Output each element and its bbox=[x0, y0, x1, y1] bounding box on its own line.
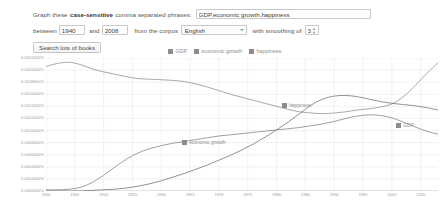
legend-item-gdp[interactable]: GDP bbox=[168, 48, 187, 54]
x-axis-tick-label: 2000 bbox=[387, 192, 396, 197]
plot-area[interactable]: happinesseconomic growthGDP bbox=[46, 58, 438, 191]
inline-label-swatch-icon bbox=[282, 103, 287, 108]
range-row: between and from the corpus English with… bbox=[33, 23, 413, 37]
smoothing-label: with smoothing of bbox=[253, 27, 302, 34]
inline-label-happiness[interactable]: happiness bbox=[282, 103, 311, 108]
y-axis-tick-label: 0.0016000% bbox=[21, 92, 44, 96]
inline-label-text: GDP bbox=[403, 123, 413, 128]
x-axis-tick-label: 1990 bbox=[330, 192, 339, 197]
smoothing-stepper[interactable]: 3 ▲▼ bbox=[305, 25, 319, 35]
graph-prompt-emphasis: case-sensitive bbox=[70, 11, 113, 18]
inline-label-swatch-icon bbox=[182, 140, 187, 145]
corpus-selected-value: English bbox=[182, 27, 205, 34]
legend-label: happiness bbox=[257, 48, 282, 54]
legend-swatch-icon bbox=[249, 49, 254, 54]
x-axis-tick-label: 2005 bbox=[416, 192, 425, 197]
series-lines bbox=[46, 62, 438, 191]
y-axis-tick-label: 0.0012000% bbox=[21, 116, 44, 120]
inline-label-text: happiness bbox=[289, 103, 311, 108]
inline-label-gdp[interactable]: GDP bbox=[396, 123, 414, 128]
corpus-label: from the corpus bbox=[134, 27, 178, 34]
x-axis-tick-label: 1980 bbox=[272, 192, 281, 197]
legend-swatch-icon bbox=[194, 49, 199, 54]
y-axis-tick-label: 0.0002000% bbox=[21, 177, 44, 181]
y-axis-tick-label: 0.0018000% bbox=[21, 80, 44, 84]
grid-lines bbox=[46, 58, 438, 191]
series-line-GDP bbox=[46, 95, 438, 191]
x-axis-ticks: 1940194519501955196019651970197519801985… bbox=[46, 192, 438, 202]
x-axis-tick-label: 1945 bbox=[70, 192, 79, 197]
corpus-select[interactable]: English bbox=[181, 25, 247, 35]
y-axis-ticks: 0.0022000%0.0020000%0.0018000%0.0016000%… bbox=[0, 58, 44, 191]
legend-item-economic-growth[interactable]: economic growth bbox=[194, 48, 242, 54]
and-label: and bbox=[89, 27, 99, 34]
chevron-down-icon bbox=[240, 29, 244, 31]
y-axis-tick-label: 0.0022000% bbox=[21, 56, 44, 60]
graph-prompt-suffix: comma separated phrases: bbox=[115, 11, 191, 18]
phrases-row: Graph these case-sensitive comma separat… bbox=[33, 7, 413, 21]
x-axis-tick-label: 1970 bbox=[214, 192, 223, 197]
inline-label-economic-growth[interactable]: economic growth bbox=[182, 140, 225, 145]
between-label: between bbox=[33, 27, 57, 34]
inline-label-text: economic growth bbox=[189, 140, 225, 145]
x-axis-tick-label: 1985 bbox=[301, 192, 310, 197]
y-axis-tick-label: 0.0014000% bbox=[21, 104, 44, 108]
legend-label: economic growth bbox=[201, 48, 242, 54]
x-axis-tick-label: 1955 bbox=[128, 192, 137, 197]
chart-legend: GDP economic growth happiness bbox=[168, 48, 281, 54]
series-line-economic-growth bbox=[46, 115, 438, 190]
ngram-viewer-page: Graph these case-sensitive comma separat… bbox=[0, 0, 445, 215]
y-axis-tick-label: 0.0020000% bbox=[21, 68, 44, 72]
x-axis-tick-label: 1995 bbox=[358, 192, 367, 197]
search-books-button[interactable]: Search lots of books bbox=[33, 42, 101, 53]
plot-svg bbox=[46, 58, 438, 191]
x-axis-tick-label: 1960 bbox=[157, 192, 166, 197]
inline-label-swatch-icon bbox=[396, 123, 401, 128]
phrases-input[interactable] bbox=[196, 9, 371, 19]
year-end-input[interactable] bbox=[102, 25, 128, 35]
x-axis-tick-label: 1940 bbox=[41, 192, 50, 197]
legend-swatch-icon bbox=[168, 49, 173, 54]
y-axis-tick-label: 0.0006000% bbox=[21, 153, 44, 157]
y-axis-tick-label: 0.0010000% bbox=[21, 129, 44, 133]
graph-prompt-prefix: Graph these bbox=[33, 11, 68, 18]
x-axis-tick-label: 1965 bbox=[186, 192, 195, 197]
x-axis-tick-label: 1950 bbox=[99, 192, 108, 197]
legend-item-happiness[interactable]: happiness bbox=[249, 48, 281, 54]
y-axis-tick-label: 0.0008000% bbox=[21, 141, 44, 145]
stepper-arrows-icon[interactable]: ▲▼ bbox=[312, 27, 316, 34]
legend-label: GDP bbox=[175, 48, 187, 54]
x-axis-tick-label: 1975 bbox=[243, 192, 252, 197]
smoothing-value: 3 bbox=[306, 27, 311, 34]
y-axis-tick-label: 0.0004000% bbox=[21, 165, 44, 169]
ngram-chart: 0.0022000%0.0020000%0.0018000%0.0016000%… bbox=[0, 58, 445, 208]
year-start-input[interactable] bbox=[59, 25, 85, 35]
